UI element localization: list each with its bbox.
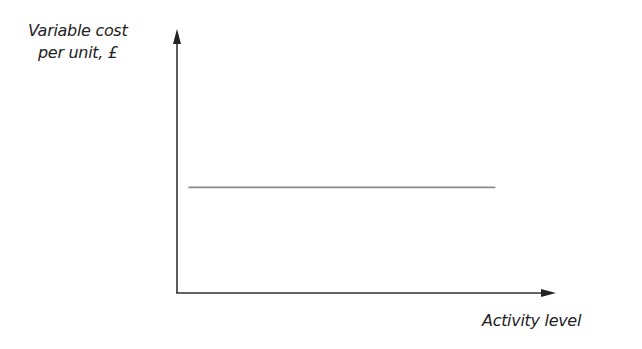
chart-plot-area [0, 0, 642, 349]
y-axis-arrow-icon [173, 29, 181, 44]
x-axis-arrow-icon [541, 289, 556, 297]
